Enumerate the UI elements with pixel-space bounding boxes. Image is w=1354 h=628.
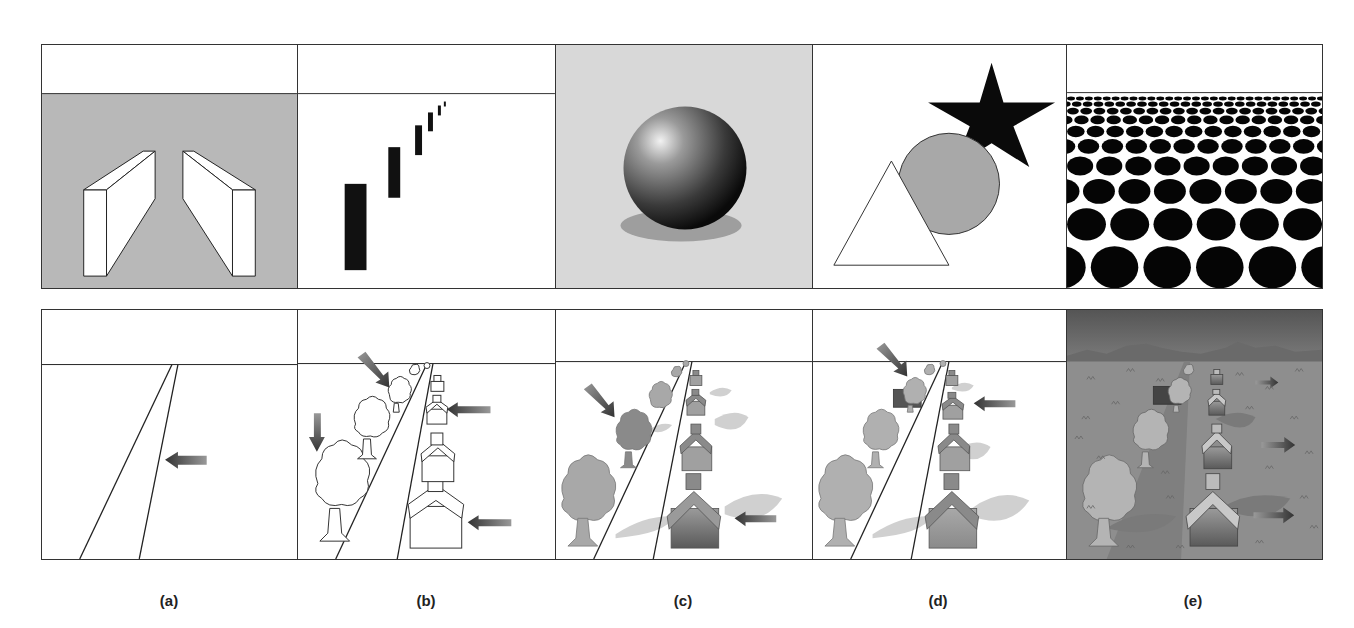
label-d: (d) <box>908 592 968 609</box>
panel-c-bottom-shaded-scene <box>555 309 813 560</box>
panel-b-bottom-outline-scene <box>297 309 556 560</box>
label-b: (b) <box>396 592 456 609</box>
panel-a-bottom-road <box>41 309 298 560</box>
shaded-scene-illustration <box>556 310 812 559</box>
panel-a-top-linear-perspective <box>41 44 298 289</box>
label-a: (a) <box>139 592 199 609</box>
label-e: (e) <box>1163 592 1223 609</box>
panel-b-top-relative-size <box>297 44 556 289</box>
panel-e-top-texture-gradient <box>1066 44 1323 289</box>
road-perspective-illustration <box>42 310 297 559</box>
label-c: (c) <box>653 592 713 609</box>
outline-scene-illustration <box>298 310 555 559</box>
ellipse-texture-illustration <box>1067 45 1322 288</box>
occlusion-scene-illustration <box>813 310 1066 559</box>
converging-walls-illustration <box>42 45 297 288</box>
diminishing-bars-illustration <box>298 45 555 288</box>
overlapping-shapes-illustration <box>813 45 1066 288</box>
panel-c-top-shading <box>555 44 813 289</box>
panel-d-top-occlusion <box>812 44 1067 289</box>
shaded-sphere-illustration <box>556 45 812 288</box>
full-depth-scene-illustration <box>1067 310 1322 559</box>
panel-e-bottom-full-scene <box>1066 309 1323 560</box>
panel-d-bottom-occlusion-scene <box>812 309 1067 560</box>
